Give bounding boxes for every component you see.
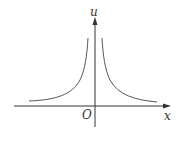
y-axis-label: u [90, 5, 98, 19]
x-axis-label: x [164, 109, 171, 123]
origin-label: O [82, 108, 92, 122]
x-axis-arrow-icon [163, 104, 171, 109]
curve-right-branch [102, 38, 157, 102]
chart-figure: u x O [0, 0, 183, 144]
curve-left-branch [29, 38, 88, 101]
